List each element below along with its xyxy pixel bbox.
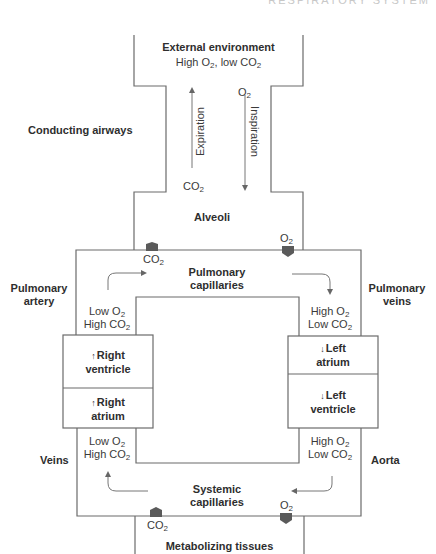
veins-gas-levels: Low O2High CO2 xyxy=(80,435,134,461)
alveoli-co2-label: CO2 xyxy=(143,253,164,266)
left-atrium-label: ↓Leftatrium xyxy=(288,342,378,369)
systemic-flow-arrow-right xyxy=(294,476,332,491)
inner-loop xyxy=(136,297,299,336)
pulmonary-capillaries-label: Pulmonarycapillaries xyxy=(182,266,252,292)
conducting-airways-label: Conducting airways xyxy=(28,124,133,137)
alveoli-label: Alveoli xyxy=(194,211,230,224)
systemic-o2-label: O2 xyxy=(280,499,293,512)
alveoli-o2-label: O2 xyxy=(280,232,293,245)
o2-entry-marker-top xyxy=(282,246,294,257)
inspiration-label: Inspiration xyxy=(248,102,261,162)
pulmonary-flow-arrow-left xyxy=(108,273,144,290)
pulmonary-flow-arrow-right xyxy=(292,274,330,292)
pulmonary-artery-gas-levels: Low O2High CO2 xyxy=(80,305,134,331)
co2-exit-marker-top xyxy=(146,242,158,251)
o2-inspired-label: O2 xyxy=(238,86,251,99)
expiration-label: Expiration xyxy=(194,102,207,162)
external-environment-subtitle: High O2, low CO2 xyxy=(150,56,287,69)
right-ventricle-label: ↑Rightventricle xyxy=(63,349,153,376)
co2-marker-bottom xyxy=(150,507,162,517)
inner-loop-bottom xyxy=(136,428,299,463)
aorta-label: Aorta xyxy=(371,454,400,467)
pulmonary-veins-gas-levels: High O2Low CO2 xyxy=(303,305,357,331)
systemic-capillaries-label: Systemiccapillaries xyxy=(182,483,252,509)
right-atrium-label: ↑Rightatrium xyxy=(63,396,153,423)
systemic-co2-label: CO2 xyxy=(147,519,168,532)
o2-marker-bottom xyxy=(280,513,292,524)
pulmonary-veins-label: Pulmonaryveins xyxy=(368,282,426,308)
veins-label: Veins xyxy=(40,454,69,467)
co2-expired-label: CO2 xyxy=(183,180,204,193)
left-ventricle-label: ↓Leftventricle xyxy=(288,389,378,416)
metabolizing-tissues-label: Metabolizing tissues xyxy=(135,540,304,553)
aorta-gas-levels: High O2Low CO2 xyxy=(303,435,357,461)
external-environment-title: External environment xyxy=(150,41,287,54)
pulmonary-artery-label: Pulmonaryartery xyxy=(10,282,68,308)
systemic-flow-arrow-left xyxy=(108,474,148,491)
